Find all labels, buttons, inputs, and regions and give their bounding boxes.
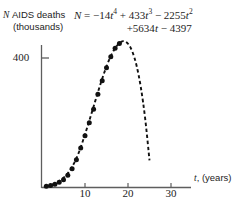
data-point <box>52 182 57 187</box>
data-point <box>95 92 100 97</box>
data-point <box>61 177 66 182</box>
model-curve-path <box>46 41 149 186</box>
data-point <box>104 65 109 70</box>
data-point <box>117 41 122 46</box>
data-point <box>74 157 79 162</box>
data-point <box>108 54 113 59</box>
data-point <box>70 166 75 171</box>
data-point <box>100 78 105 83</box>
data-point <box>65 173 70 178</box>
data-point <box>91 107 96 112</box>
data-point <box>44 184 49 189</box>
plot-area <box>0 0 233 209</box>
data-point <box>87 120 92 125</box>
data-point <box>78 146 83 151</box>
model-curve <box>46 41 149 186</box>
data-point <box>57 180 62 185</box>
data-point <box>83 133 88 138</box>
aids-deaths-quartic-chart: N AIDS deaths (thousands) N = −14t4 + 43… <box>0 0 233 209</box>
data-point <box>113 46 118 51</box>
data-point-series <box>44 41 122 189</box>
data-point <box>48 183 53 188</box>
